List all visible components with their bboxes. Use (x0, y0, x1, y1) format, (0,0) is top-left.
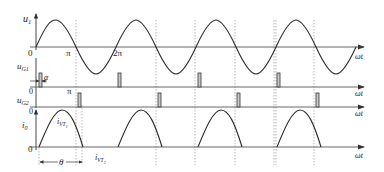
ug2-ylabel: uG2 (17, 95, 29, 106)
u1-tick-2pi: 2π (113, 48, 123, 58)
ug1-ylabel: uG1 (17, 61, 29, 72)
i0-ylabel: i0 (22, 120, 28, 131)
ug2-gate-pulses (78, 93, 319, 107)
u1-ylabel: u1 (23, 13, 31, 25)
u1-tick-pi: π (66, 48, 71, 58)
i0-origin-top: 0 (29, 107, 33, 116)
ug1-gate-pulses (39, 73, 280, 87)
i0-xlabel: ωt (355, 151, 364, 160)
panel-i0: 0 i0 0 iVT1 iVT2 θ ωt (22, 107, 364, 167)
ivt2-label: iVT2 (95, 153, 106, 165)
i0-current-pulses (39, 110, 321, 147)
theta-label: θ (59, 157, 64, 167)
i0-origin: 0 (28, 144, 33, 154)
rectifier-waveform-diagram: u1 0 π 2π ωt uG1 α ωt 0 uG2 π (0, 0, 384, 172)
u1-origin: 0 (28, 48, 33, 58)
u1-xlabel: ωt (355, 52, 364, 61)
ug2-xlabel: ωt (355, 109, 364, 118)
ivt1-label: iVT1 (57, 117, 68, 129)
panel-u1: u1 0 π 2π ωt (23, 13, 364, 74)
alpha-label: α (44, 73, 49, 82)
ug2-tick-pi: π (67, 86, 72, 96)
ug1-xlabel: ωt (355, 89, 364, 98)
ug2-origin: 0 (29, 87, 33, 96)
panel-ug2: 0 uG2 π ωt (17, 86, 364, 118)
